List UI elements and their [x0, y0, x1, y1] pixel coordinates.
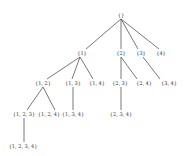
node-n14: {1, 4} [89, 81, 105, 86]
edge-n12-n123 [27, 87, 43, 110]
node-n0: {} [118, 13, 124, 18]
edge-n1-n14 [80, 57, 93, 79]
node-n24: {2, 4} [136, 81, 152, 86]
node-n3: {3} [136, 51, 146, 56]
edge-n3-n34 [143, 57, 160, 79]
edge-n1-n12 [47, 57, 80, 79]
edge-n0-n4 [121, 19, 159, 49]
edge-n0-n1 [86, 19, 121, 49]
node-n234: {2, 3, 4} [110, 112, 132, 117]
edge-n0-n3 [121, 19, 138, 49]
node-n134: {1, 3, 4} [62, 112, 84, 117]
node-n123: {1, 2, 3} [13, 112, 35, 117]
node-n1234: {1, 2, 3, 4} [9, 144, 38, 149]
edge-n12-n124 [43, 87, 55, 110]
edge-n2-n24 [121, 57, 137, 79]
node-n13: {1, 3} [65, 81, 81, 86]
node-n4: {4} [156, 51, 166, 56]
edge-n1-n13 [72, 57, 80, 79]
node-n34: {3, 4} [161, 81, 177, 86]
tree-edges [0, 0, 186, 156]
node-n1: {1} [77, 51, 87, 56]
node-n124: {1, 2, 4} [38, 112, 60, 117]
node-n23: {2, 3} [112, 81, 128, 86]
node-n2: {2} [116, 51, 126, 56]
node-n12: {1, 2} [35, 81, 51, 86]
